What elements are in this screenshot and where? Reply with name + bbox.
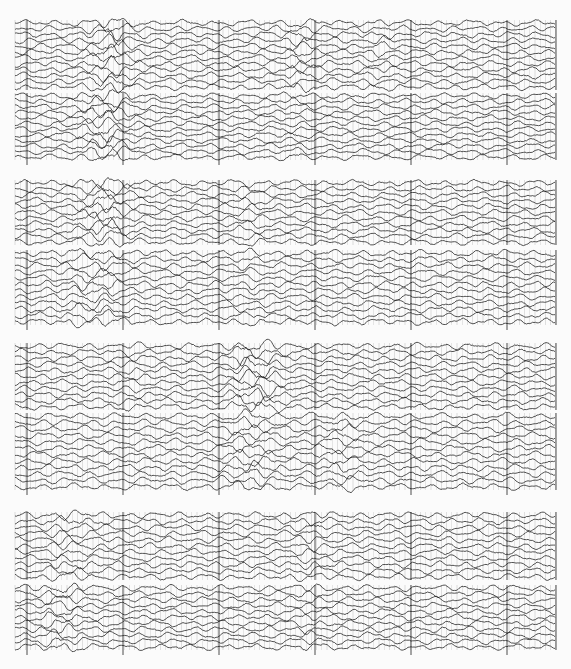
- wiggle-trace: [15, 469, 555, 479]
- wiggle-trace: [15, 430, 555, 441]
- trace-band: [15, 409, 556, 495]
- wiggle-trace: [15, 516, 555, 527]
- panel-record-3: [15, 339, 556, 495]
- wiggle-trace: [15, 83, 555, 94]
- wiggle-trace: [15, 195, 555, 208]
- wiggle-trace: [15, 339, 555, 350]
- wiggle-trace: [15, 510, 555, 521]
- wiggle-trace: [15, 217, 555, 230]
- wiggle-trace: [15, 377, 555, 388]
- wiggle-trace: [15, 267, 555, 277]
- wiggle-trace: [15, 409, 555, 420]
- wiggle-trace: [15, 262, 555, 271]
- wiggle-trace: [15, 589, 555, 598]
- wiggle-trace: [15, 309, 555, 322]
- wiggle-trace: [15, 285, 555, 296]
- wiggle-trace: [15, 424, 555, 435]
- wiggle-trace: [15, 299, 555, 311]
- wiggle-trace: [15, 102, 555, 114]
- wiggle-trace: [15, 566, 555, 575]
- wiggle-trace: [15, 629, 555, 639]
- panel-record-1: [15, 19, 556, 166]
- wiggle-trace: [15, 523, 555, 532]
- wiggle-trace: [15, 607, 555, 616]
- wiggle-trace: [15, 293, 555, 303]
- wiggle-trace: [15, 354, 555, 366]
- wiggle-trace: [15, 39, 555, 50]
- wiggle-trace: [15, 530, 555, 538]
- trace-band: [15, 583, 556, 655]
- trace-band: [15, 248, 556, 330]
- wiggle-trace: [15, 65, 555, 78]
- wiggle-trace: [15, 34, 555, 46]
- wiggle-trace: [15, 248, 555, 259]
- seismogram-traces: [0, 0, 571, 669]
- wiggle-trace: [15, 624, 555, 635]
- wiggle-trace: [15, 136, 555, 149]
- wiggle-trace: [15, 475, 555, 486]
- wiggle-trace: [15, 456, 555, 467]
- wiggle-trace: [15, 596, 555, 605]
- seismogram-figure: [0, 0, 571, 669]
- wiggle-trace: [15, 19, 555, 28]
- wiggle-trace: [15, 89, 555, 101]
- panel-record-4: [15, 510, 556, 655]
- wiggle-trace: [15, 612, 555, 622]
- panel-record-2: [15, 177, 556, 330]
- wiggle-trace: [15, 561, 555, 570]
- wiggle-trace: [15, 177, 555, 189]
- wiggle-trace: [15, 572, 555, 581]
- wiggle-trace: [15, 583, 555, 593]
- wiggle-trace: [15, 56, 555, 70]
- trace-band: [15, 19, 556, 94]
- trace-band: [15, 339, 556, 413]
- wiggle-trace: [15, 388, 555, 402]
- wiggle-trace: [15, 554, 555, 563]
- wiggle-trace: [15, 77, 555, 88]
- wiggle-trace: [15, 108, 555, 118]
- wiggle-trace: [15, 124, 555, 134]
- trace-band: [15, 89, 556, 165]
- wiggle-trace: [15, 369, 555, 382]
- trace-band: [15, 510, 556, 581]
- wiggle-trace: [15, 317, 555, 327]
- wiggle-trace: [15, 643, 555, 651]
- trace-band: [15, 177, 556, 247]
- wiggle-trace: [15, 146, 555, 157]
- wiggle-trace: [15, 202, 555, 213]
- wiggle-trace: [15, 280, 555, 292]
- wiggle-trace: [15, 449, 555, 459]
- wiggle-trace: [15, 601, 555, 611]
- wiggle-trace: [15, 536, 555, 545]
- wiggle-trace: [15, 402, 555, 413]
